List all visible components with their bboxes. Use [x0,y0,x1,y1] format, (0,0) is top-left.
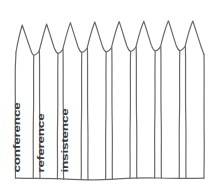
picket-label-conference: conference [13,102,22,172]
fence-drawing [0,0,218,194]
fence-baseline [16,178,205,180]
picket-divider-8 [112,47,113,179]
picket-divider-13 [179,51,180,179]
picket-label-reference: reference [37,113,46,172]
picket-divider-3 [57,54,58,179]
picket-label-insistence: insistence [61,108,70,172]
picket-divider-7 [106,52,107,179]
picket-divider-9 [130,52,131,179]
picket-divider-1 [33,55,34,178]
picket-divider-12 [161,47,162,179]
picket-divider-5 [81,53,82,180]
picket-divider-6 [87,48,88,180]
picket-divider-14 [185,46,186,178]
fence-top-silhouette [16,21,204,55]
picket-fence-figure: conference reference insistence [0,0,218,194]
picket-divider-10 [136,47,137,178]
picket-divider-11 [155,51,156,178]
